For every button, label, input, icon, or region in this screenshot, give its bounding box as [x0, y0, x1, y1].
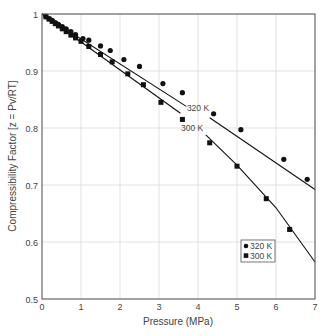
data-point-square — [287, 227, 292, 232]
y-tick-labels: 0.50.60.70.80.91 — [25, 10, 38, 305]
x-tick-label: 4 — [195, 302, 200, 312]
data-point-square — [110, 59, 115, 64]
data-point-square — [235, 164, 240, 169]
data-point-circle — [160, 81, 165, 86]
x-tick-label: 2 — [117, 302, 122, 312]
data-point-square — [158, 100, 163, 105]
series-annotations: 320 K300 K — [181, 103, 209, 133]
data-point-circle — [98, 43, 103, 48]
fit-lines — [42, 14, 315, 262]
x-tick-label: 3 — [156, 302, 161, 312]
legend-label-320k: 320 K — [250, 241, 273, 251]
x-axis-label: Pressure (MPa) — [143, 316, 213, 327]
data-point-square — [73, 35, 78, 40]
data-point-circle — [137, 64, 142, 69]
data-point-circle — [211, 111, 216, 116]
legend: 320 K 300 K — [241, 240, 275, 262]
data-point-square — [86, 44, 91, 49]
compressibility-chart: 01234567 0.50.60.70.80.91 320 K300 K Pre… — [0, 0, 330, 336]
data-point-square — [207, 140, 212, 145]
x-tick-label: 0 — [39, 302, 44, 312]
data-point-square — [79, 39, 84, 44]
y-tick-label: 0.8 — [25, 124, 38, 134]
data-point-circle — [305, 177, 310, 182]
legend-circle-icon — [244, 244, 249, 249]
series-label-300k: 300 K — [181, 123, 204, 133]
y-tick-label: 0.6 — [25, 238, 38, 248]
data-point-circle — [108, 48, 113, 53]
data-point-circle — [238, 127, 243, 132]
x-tick-labels: 01234567 — [39, 302, 317, 312]
data-point-circle — [121, 57, 126, 62]
data-point-square — [141, 82, 146, 87]
y-axis-label: Compressibility Factor [z = Pv/RT] — [7, 80, 18, 231]
data-point-circle — [281, 157, 286, 162]
legend-label-300k: 300 K — [250, 251, 273, 261]
data-point-square — [125, 71, 130, 76]
y-tick-label: 0.5 — [25, 295, 38, 305]
x-tick-label: 5 — [234, 302, 239, 312]
data-point-circle — [180, 90, 185, 95]
series-label-320k: 320 K — [187, 103, 210, 113]
y-tick-label: 0.9 — [25, 67, 38, 77]
data-point-square — [180, 117, 185, 122]
data-points — [43, 14, 310, 232]
y-tick-label: 1 — [33, 10, 38, 20]
y-tick-label: 0.7 — [25, 181, 38, 191]
legend-square-icon — [244, 253, 249, 258]
x-tick-label: 7 — [312, 302, 317, 312]
data-point-square — [68, 33, 73, 38]
data-point-square — [264, 196, 269, 201]
data-point-square — [64, 29, 69, 34]
x-tick-label: 1 — [78, 302, 83, 312]
data-point-circle — [86, 38, 91, 43]
data-point-square — [98, 52, 103, 57]
x-tick-label: 6 — [273, 302, 278, 312]
